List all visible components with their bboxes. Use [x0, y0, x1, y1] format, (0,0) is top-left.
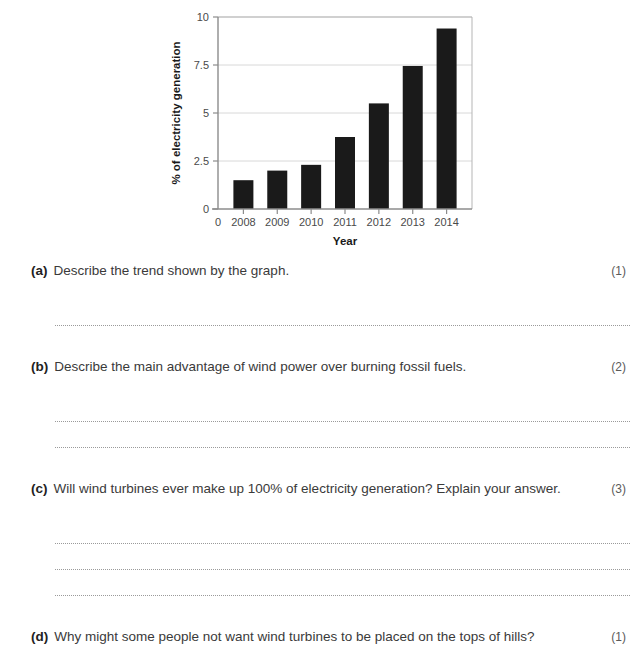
question-marks: (2) — [602, 360, 626, 374]
x-origin-label: 0 — [215, 216, 221, 228]
bar-2009 — [267, 171, 287, 209]
bar-2010 — [301, 165, 321, 209]
y-tick-label-4: 10 — [197, 11, 209, 23]
question-text: Describe the trend shown by the graph. — [54, 262, 593, 280]
answer-line[interactable] — [55, 304, 630, 330]
y-tick-label-3: 7.5 — [194, 59, 209, 71]
question-block: (a)Describe the trend shown by the graph… — [0, 250, 642, 330]
question-block: (b)Describe the main advantage of wind p… — [0, 330, 642, 452]
question-row: (c)Will wind turbines ever make up 100% … — [0, 480, 642, 502]
bar-2008 — [233, 180, 253, 209]
x-tick-label-2009: 2009 — [265, 216, 289, 228]
bar-2011 — [335, 137, 355, 209]
x-tick-label-2010: 2010 — [299, 216, 323, 228]
question-block: (c)Will wind turbines ever make up 100% … — [0, 452, 642, 600]
answer-lines — [0, 380, 642, 452]
question-letter: (c) — [31, 481, 48, 496]
question-letter: (b) — [31, 359, 48, 374]
answer-line[interactable] — [55, 574, 630, 600]
question-text: Will wind turbines ever make up 100% of … — [54, 480, 593, 498]
question-text: Describe the main advantage of wind powe… — [54, 358, 592, 376]
electricity-generation-bar-chart: 02.557.51002008200920102011201220132014Y… — [0, 0, 642, 250]
answer-lines — [0, 502, 642, 600]
x-tick-label-2008: 2008 — [231, 216, 255, 228]
answer-line[interactable] — [55, 426, 630, 452]
x-tick-label-2011: 2011 — [333, 216, 357, 228]
question-marks: (1) — [602, 264, 626, 278]
question-block: (d)Why might some people not want wind t… — [0, 600, 642, 648]
question-row: (a)Describe the trend shown by the graph… — [0, 262, 642, 284]
chart-svg: 02.557.51002008200920102011201220132014Y… — [0, 0, 642, 250]
y-tick-label-1: 2.5 — [194, 155, 209, 167]
x-tick-label-2012: 2012 — [367, 216, 391, 228]
question-marks: (3) — [602, 482, 626, 496]
bar-2012 — [369, 103, 389, 209]
y-tick-label-0: 0 — [203, 203, 209, 215]
x-tick-label-2014: 2014 — [434, 216, 458, 228]
y-tick-label-2: 5 — [203, 107, 209, 119]
x-axis-title: Year — [333, 235, 358, 247]
answer-line[interactable] — [55, 400, 630, 426]
y-axis-title: % of electricity generation — [170, 41, 182, 184]
question-letter: (a) — [31, 263, 48, 278]
question-marks: (1) — [602, 630, 626, 644]
bar-2014 — [437, 29, 457, 209]
answer-line[interactable] — [55, 522, 630, 548]
question-letter: (d) — [31, 629, 48, 644]
question-list: (a)Describe the trend shown by the graph… — [0, 250, 642, 648]
question-row: (d)Why might some people not want wind t… — [0, 628, 642, 648]
answer-lines — [0, 284, 642, 330]
question-row: (b)Describe the main advantage of wind p… — [0, 358, 642, 380]
question-text: Why might some people not want wind turb… — [54, 628, 592, 646]
answer-line[interactable] — [55, 548, 630, 574]
x-tick-label-2013: 2013 — [400, 216, 424, 228]
bar-2013 — [403, 66, 423, 209]
